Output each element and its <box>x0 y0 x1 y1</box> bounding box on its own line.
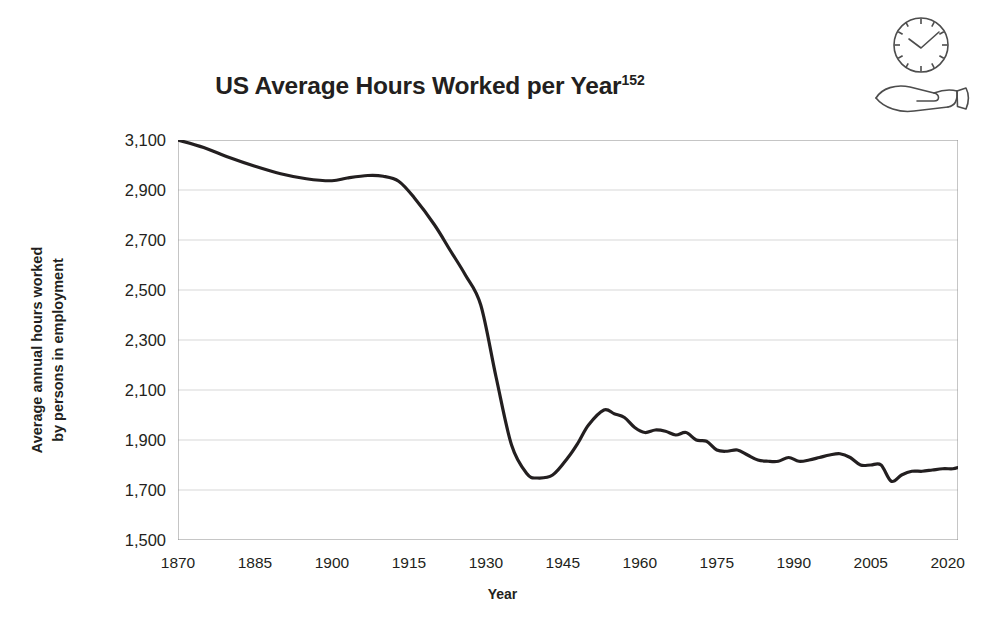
chart-title-text: US Average Hours Worked per Year <box>215 72 621 99</box>
x-axis-title: Year <box>0 586 1005 602</box>
y-axis-tick-label: 2,900 <box>125 181 166 200</box>
line-chart-canvas <box>178 140 958 540</box>
x-axis-tick-label: 1870 <box>161 554 195 572</box>
x-axis-tick-label: 1900 <box>315 554 349 572</box>
gridlines <box>178 190 958 490</box>
x-axis-tick-label: 1930 <box>469 554 503 572</box>
x-axis-tick-label: 1990 <box>777 554 811 572</box>
y-axis-tick-label: 2,100 <box>125 381 166 400</box>
chart-title-footnote-superscript: 152 <box>621 72 644 88</box>
x-axis-tick-label: 1915 <box>392 554 426 572</box>
y-axis-tick-label: 2,500 <box>125 281 166 300</box>
data-series-line <box>178 140 958 482</box>
y-axis-tick-label: 2,700 <box>125 231 166 250</box>
y-axis-tick-label: 1,700 <box>125 481 166 500</box>
x-axis-tick-label: 1975 <box>700 554 734 572</box>
x-axis-tick-label: 1885 <box>238 554 272 572</box>
y-axis-tick-label: 3,100 <box>125 131 166 150</box>
chart-title: US Average Hours Worked per Year152 <box>0 72 860 100</box>
clock-over-hand-icon <box>862 12 980 116</box>
y-axis-title-line-2: by persons in employment <box>48 200 69 500</box>
plot-area: 1,5001,7001,9002,1002,3002,5002,7002,900… <box>178 140 958 540</box>
y-axis-tick-label: 1,900 <box>125 431 166 450</box>
x-axis-tick-label: 2005 <box>854 554 888 572</box>
y-axis-tick-label: 2,300 <box>125 331 166 350</box>
x-axis-tick-label: 2020 <box>930 554 964 572</box>
y-axis-title: Average annual hours worked by persons i… <box>27 200 71 500</box>
chart-figure: US Average Hours Worked per Year152 Ave <box>0 0 1005 626</box>
y-axis-tick-label: 1,500 <box>125 531 166 550</box>
x-axis-tick-label: 1960 <box>623 554 657 572</box>
x-axis-tick-label: 1945 <box>546 554 580 572</box>
y-axis-title-line-1: Average annual hours worked <box>27 200 48 500</box>
